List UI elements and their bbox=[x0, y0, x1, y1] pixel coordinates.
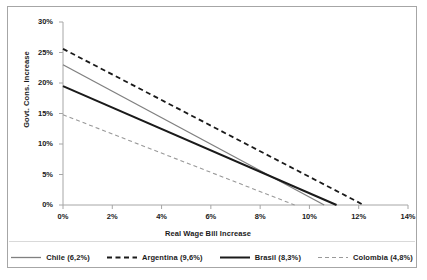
legend-label: Chile (6,2%) bbox=[46, 253, 90, 262]
x-axis-tick-label: 10% bbox=[294, 212, 324, 221]
x-axis-tick-label: 0% bbox=[48, 212, 78, 221]
legend-swatch-icon bbox=[318, 254, 348, 261]
axis-lines bbox=[63, 22, 408, 205]
y-axis-tick-label: 15% bbox=[25, 109, 53, 118]
x-axis-tick-label: 12% bbox=[344, 212, 374, 221]
y-axis-tick-label: 10% bbox=[25, 139, 53, 148]
legend-label: Colombia (4,8%) bbox=[353, 253, 413, 262]
plot-area: Govt. Cons. Increase 0%5%10%15%20%25%30% bbox=[8, 7, 418, 212]
legend-swatch-icon bbox=[107, 254, 137, 261]
x-axis-tick-label: 4% bbox=[147, 212, 177, 221]
series-line bbox=[63, 115, 295, 205]
y-axis-tick-label: 25% bbox=[25, 48, 53, 57]
legend-item[interactable]: Colombia (4,8%) bbox=[318, 253, 413, 262]
legend-item[interactable]: Argentina (9,6%) bbox=[107, 253, 203, 262]
y-axis-tick-label: 0% bbox=[25, 200, 53, 209]
x-axis-tick-label: 6% bbox=[196, 212, 226, 221]
x-axis-tick-label: 2% bbox=[97, 212, 127, 221]
y-axis-tick-label: 20% bbox=[25, 78, 53, 87]
legend-item[interactable]: Brasil (8,3%) bbox=[220, 253, 301, 262]
y-axis-tick-label: 30% bbox=[25, 17, 53, 26]
series-lines bbox=[63, 49, 364, 205]
legend-swatch-icon bbox=[220, 254, 250, 261]
x-axis-tick-label: 14% bbox=[393, 212, 423, 221]
x-axis-title: Real Wage Bill Increase bbox=[63, 229, 353, 238]
series-line bbox=[63, 86, 337, 205]
legend-divider bbox=[9, 241, 415, 242]
x-axis-tick-label: 8% bbox=[245, 212, 275, 221]
legend-label: Argentina (9,6%) bbox=[142, 253, 203, 262]
chart-legend: Chile (6,2%)Argentina (9,6%)Brasil (8,3%… bbox=[8, 247, 416, 267]
chart-plot-svg bbox=[8, 7, 418, 212]
y-axis-tick-label: 5% bbox=[25, 170, 53, 179]
series-line bbox=[63, 65, 324, 205]
chart-container: Govt. Cons. Increase 0%5%10%15%20%25%30%… bbox=[7, 6, 417, 268]
legend-label: Brasil (8,3%) bbox=[255, 253, 301, 262]
legend-item[interactable]: Chile (6,2%) bbox=[11, 253, 90, 262]
legend-swatch-icon bbox=[11, 254, 41, 261]
series-line bbox=[63, 49, 364, 205]
